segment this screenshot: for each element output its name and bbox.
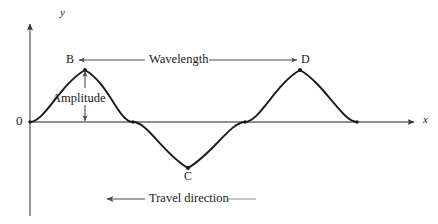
x-axis-label: x — [423, 114, 428, 125]
origin-dot — [28, 120, 31, 123]
zero-crossing-dot-1 — [131, 120, 134, 123]
crest-d-dot — [298, 68, 302, 72]
point-label-d: D — [301, 53, 310, 65]
wave-diagram-figure: y x 0 B C D Wavelength Amplitude Travel … — [0, 0, 438, 224]
y-axis-label: y — [60, 7, 65, 18]
point-label-c: C — [184, 170, 192, 182]
wavelength-label: Wavelength — [149, 53, 208, 66]
zero-crossing-dot-2 — [243, 120, 246, 123]
amplitude-label: Amplitude — [52, 92, 105, 105]
origin-label: 0 — [16, 114, 23, 127]
point-label-b: B — [66, 53, 74, 65]
travel-direction-label: Travel direction — [149, 192, 229, 205]
wave-curve — [30, 70, 357, 168]
zero-crossing-dot-3 — [355, 120, 358, 123]
